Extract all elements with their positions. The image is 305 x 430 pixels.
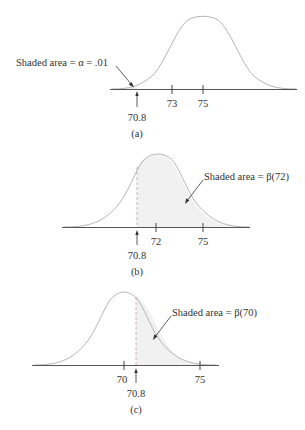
annotation-arrow-a (116, 66, 132, 85)
normal-curve-a (112, 16, 296, 89)
arrowhead-icon (134, 368, 137, 373)
tick-label-75-c: 75 (195, 374, 206, 385)
caption-c: (c) (130, 404, 142, 416)
tick-label-73: 73 (167, 98, 178, 109)
tick-label-75-b: 75 (198, 236, 209, 247)
arrowhead-icon (135, 91, 138, 96)
tick-label-72: 72 (151, 236, 162, 247)
tick-label-75-a: 75 (198, 98, 209, 109)
normal-curve-c (34, 292, 216, 365)
tick-label-70: 70 (117, 374, 128, 385)
annotation-arrow-c (155, 316, 171, 337)
panel-a: 73 75 70.8 (a) Shaded area = α = .01 (16, 16, 297, 140)
arrowhead-icon (135, 230, 138, 235)
annotation-c: Shaded area = β(70) (172, 307, 258, 319)
annotation-b: Shaded area = β(72) (204, 171, 290, 183)
panel-c: 70 75 70.8 (c) Shaded area = β(70) (32, 292, 258, 416)
caption-a: (a) (131, 128, 143, 140)
caption-b: (b) (131, 266, 144, 278)
panel-b: 72 75 70.8 (b) Shaded area = β(72) (62, 154, 290, 278)
normal-curves-figure: 73 75 70.8 (a) Shaded area = α = .01 72 … (0, 0, 305, 430)
shaded-beta-b (137, 154, 248, 227)
annotation-a: Shaded area = α = .01 (16, 57, 108, 68)
critical-value-label-b: 70.8 (128, 250, 146, 261)
critical-value-label-a: 70.8 (128, 112, 146, 123)
critical-value-label-c: 70.8 (127, 388, 145, 399)
